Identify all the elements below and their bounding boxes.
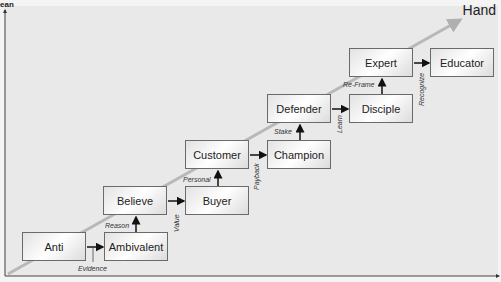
corner-label: ean <box>0 0 14 9</box>
box-believe: Believe <box>103 186 167 215</box>
box-disciple: Disciple <box>349 94 413 123</box>
label-recognize: Recognize <box>418 73 425 106</box>
label-payback: Payback <box>253 163 260 190</box>
diagram-canvas: ean Hand Anti Ambivalent Believe Buyer C… <box>0 0 501 282</box>
label-reason: Reason <box>105 222 129 229</box>
label-stake: Stake <box>274 128 292 135</box>
box-buyer: Buyer <box>185 186 249 215</box>
box-defender: Defender <box>267 94 331 123</box>
box-ambivalent: Ambivalent <box>104 232 168 261</box>
label-personal: Personal <box>183 176 211 183</box>
box-anti: Anti <box>22 232 86 261</box>
box-expert: Expert <box>349 48 413 77</box>
label-reframe: Re-Frame <box>343 81 375 88</box>
box-customer: Customer <box>185 140 249 169</box>
label-evidence: Evidence <box>78 265 107 272</box>
axis-title-hand: Hand <box>463 2 496 18</box>
box-educator: Educator <box>430 48 494 77</box>
box-champion: Champion <box>267 140 331 169</box>
label-value: Value <box>173 214 180 232</box>
label-learn: Learn <box>336 115 343 133</box>
